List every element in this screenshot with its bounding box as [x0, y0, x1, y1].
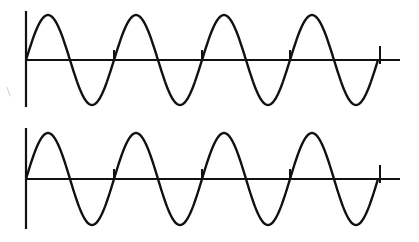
sine-wave-svg-bottom: [0, 121, 419, 242]
sine-wave-diagram-bottom: [0, 121, 419, 242]
sine-wave-diagram-top: [0, 0, 419, 121]
sine-wave-svg-top: [0, 0, 419, 121]
